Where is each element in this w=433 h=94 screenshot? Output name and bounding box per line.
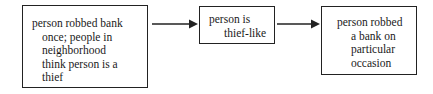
arrow-icon — [277, 20, 320, 29]
edges-layer — [0, 0, 433, 94]
arrow-icon — [152, 20, 198, 29]
